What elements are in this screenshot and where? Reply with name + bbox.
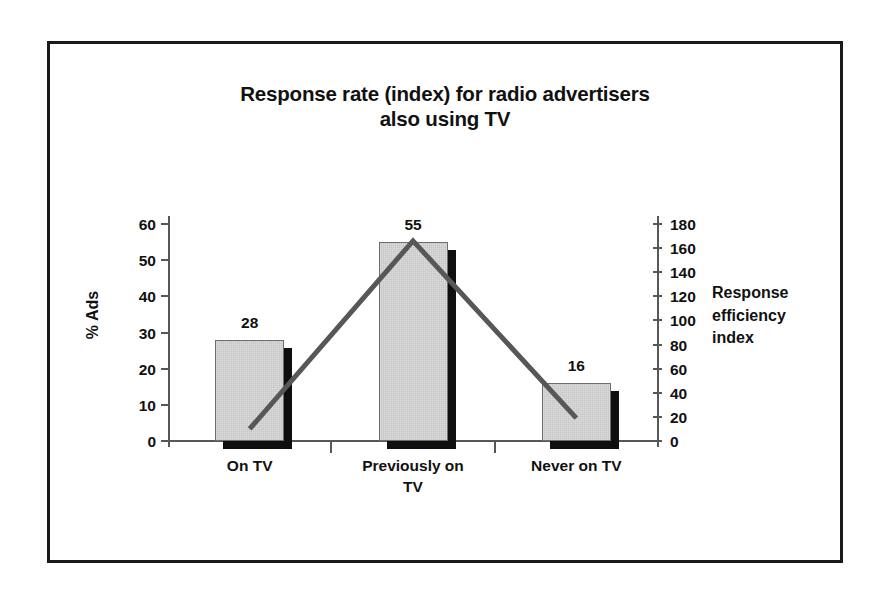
- x-axis-category-label-line: Never on TV: [495, 456, 658, 477]
- y-axis-right-tick-label: 60: [670, 361, 687, 379]
- y-axis-right-tick-label: 40: [670, 385, 687, 403]
- y-axis-right-title: Response efficiency index: [712, 282, 832, 350]
- y-axis-left-tick-label: 40: [100, 288, 156, 306]
- y-axis-right-tick-label: 0: [670, 433, 679, 451]
- y-axis-right-tick-label: 140: [670, 264, 696, 282]
- chart-title-line-2: also using TV: [50, 107, 840, 132]
- y-axis-left-tick-label: 30: [100, 325, 156, 343]
- x-axis-category-label-line: TV: [331, 477, 494, 498]
- x-axis-category-label-line: Previously on: [331, 456, 494, 477]
- x-axis-tick: [494, 442, 496, 453]
- y-axis-right-title-line-3: index: [712, 327, 832, 350]
- y-axis-right-tick-label: 20: [670, 409, 687, 427]
- y-axis-right-title-line-2: efficiency: [712, 305, 832, 328]
- x-axis-category-label: On TV: [168, 456, 331, 477]
- y-axis-right-tick-label: 100: [670, 312, 696, 330]
- chart-title: Response rate (index) for radio advertis…: [50, 82, 840, 131]
- y-axis-left-title: % Ads: [84, 260, 102, 370]
- y-axis-right-tick-label: 160: [670, 240, 696, 258]
- y-axis-right-tick-label: 180: [670, 216, 696, 234]
- y-axis-right-tick-label: 80: [670, 337, 687, 355]
- chart-frame: Response rate (index) for radio advertis…: [47, 41, 843, 563]
- x-axis-category-label-line: On TV: [168, 456, 331, 477]
- y-axis-right-tick-label: 120: [670, 288, 696, 306]
- y-axis-left-tick-label: 0: [100, 433, 156, 451]
- x-axis-tick: [330, 442, 332, 453]
- x-axis-category-label: Previously onTV: [331, 456, 494, 498]
- y-axis-left-tick-label: 60: [100, 216, 156, 234]
- x-axis-category-label: Never on TV: [495, 456, 658, 477]
- line-path: [250, 241, 577, 429]
- chart-title-line-1: Response rate (index) for radio advertis…: [240, 82, 650, 105]
- y-axis-left-tick-label: 10: [100, 397, 156, 415]
- y-axis-left-tick-label: 20: [100, 361, 156, 379]
- y-axis-left-tick-label: 50: [100, 252, 156, 270]
- line-series: [168, 224, 658, 441]
- y-axis-right-title-line-1: Response: [712, 282, 832, 305]
- plot-area: 285516: [168, 224, 658, 441]
